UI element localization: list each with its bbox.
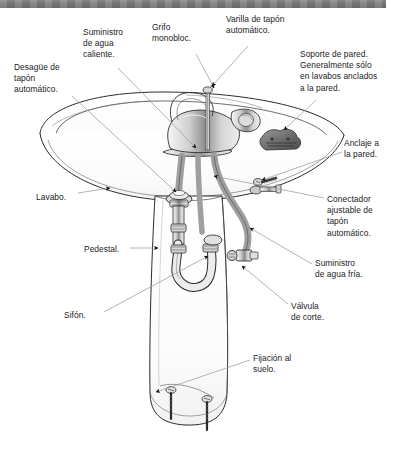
leader-varilla	[212, 46, 248, 86]
leader-valvula	[242, 266, 288, 304]
label-suministro-fria: Suministro de agua fría.	[315, 258, 363, 280]
illustration-page: Desagüe de tapón automático. Suministro …	[0, 0, 398, 449]
label-lavabo: Lavabo.	[36, 192, 66, 203]
tailpiece-nut	[171, 224, 186, 232]
label-soporte-pared: Soporte de pared. Generalmente sólo en l…	[300, 49, 377, 94]
label-varilla-tapon: Varilla de tapón automático.	[226, 14, 284, 36]
label-valvula-corte: Válvula de corte.	[291, 301, 324, 323]
wall-bracket	[260, 129, 301, 150]
label-sifon: Sifón.	[64, 310, 86, 321]
stop-valve	[227, 250, 258, 261]
label-suministro-caliente: Suministro de agua caliente.	[83, 27, 123, 61]
trap-outlet	[204, 235, 222, 245]
leader-suministro-fria	[250, 228, 312, 264]
stop-valve-handle	[227, 251, 237, 261]
label-grifo-monobloc: Grifo monobloc.	[152, 22, 191, 44]
label-fijacion-suelo: Fijación al suelo.	[253, 353, 291, 375]
leader-grifo	[196, 54, 214, 88]
label-pedestal: Pedestal.	[84, 244, 119, 255]
leader-lavabo	[78, 188, 110, 193]
label-anclaje-pared: Anclaje a la pared.	[344, 138, 379, 160]
pedestal-group	[150, 196, 228, 425]
label-conectador-ajustable: Conectador ajustable de tapón automático…	[327, 194, 373, 239]
label-desague: Desagüe de tapón automático.	[14, 62, 60, 96]
